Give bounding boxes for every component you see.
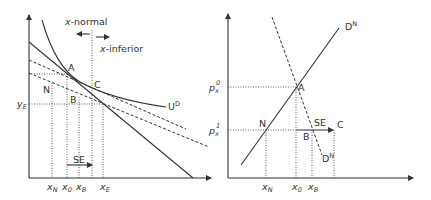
economics-diagram: x-normal x-inferior A C N B UD yE SE xN …: [0, 0, 431, 200]
right-x-tick-x0: x0: [291, 181, 302, 194]
dashed-demand-label: DN: [322, 152, 334, 164]
right-guide-lines: [228, 87, 334, 178]
indifference-curve: [42, 20, 166, 107]
x-tick-x0: x0: [61, 181, 72, 194]
right-x-tick-xb: xB: [307, 181, 319, 194]
x-tick-xb: xB: [75, 181, 87, 194]
left-guide-lines: [29, 30, 103, 178]
x-inferior-label: x-inferior: [99, 43, 143, 54]
y-tick-px0: px0: [208, 79, 220, 95]
x-normal-label: x-normal: [64, 16, 107, 27]
right-point-a-label: A: [298, 82, 305, 93]
normal-demand-label: DN: [345, 20, 357, 32]
indifference-curve-label: UD: [168, 100, 180, 112]
right-point-b-label: B: [303, 131, 310, 142]
point-a-label: A: [68, 62, 75, 73]
y-tick-px1: px1: [208, 122, 220, 138]
right-point-c-label: C: [337, 119, 344, 130]
normal-demand-curve: [241, 28, 339, 165]
point-c-label: C: [94, 79, 101, 90]
left-panel: x-normal x-inferior A C N B UD yE SE xN …: [16, 15, 211, 194]
point-n-label: N: [43, 84, 50, 95]
right-x-tick-xn: xN: [261, 181, 273, 194]
y-e-label: yE: [16, 98, 28, 111]
right-point-n-label: N: [259, 118, 266, 129]
x-tick-xe: xE: [99, 181, 111, 194]
right-panel: SE A N B C DN DN px0 px1 xN x0 xB: [208, 14, 413, 194]
right-substitution-effect-label: SE: [314, 117, 326, 128]
x-tick-xn: xN: [46, 181, 58, 194]
point-b-label: B: [70, 94, 77, 105]
compensated-budget-line-lower: [29, 73, 209, 147]
compensated-budget-line-upper: [29, 60, 186, 129]
substitution-effect-label: SE: [73, 154, 85, 165]
